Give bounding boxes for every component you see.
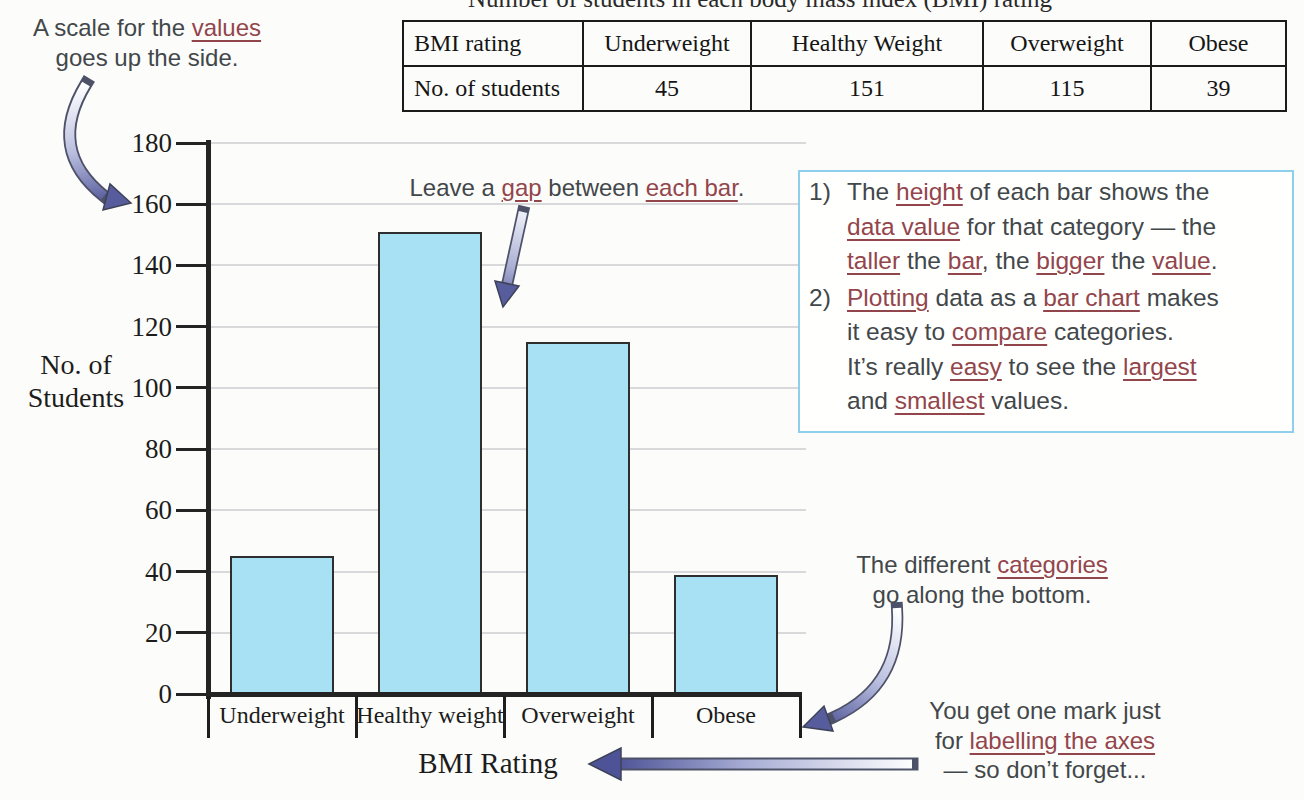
text-segment: , the bbox=[982, 247, 1036, 274]
text-segment: . bbox=[1211, 247, 1218, 274]
key-point-1-number: 1) bbox=[809, 175, 831, 210]
text-segment: Leave a bbox=[410, 174, 502, 201]
x-axis-title: BMI Rating bbox=[370, 748, 606, 778]
text-segment: . bbox=[738, 174, 745, 201]
y-tick-60 bbox=[176, 509, 208, 512]
key-point-2-line2: it easy to compare categories. bbox=[847, 315, 1292, 350]
category-separator-3 bbox=[651, 696, 654, 738]
text-segment: to see the bbox=[1002, 353, 1123, 380]
gap-annotation-line1: Leave a gap between each bar. bbox=[407, 173, 747, 203]
text-segment: the bbox=[900, 247, 948, 274]
axis-marks-line2: for labelling the axes bbox=[890, 726, 1200, 756]
text-segment: — so don’t forget... bbox=[944, 756, 1147, 783]
text-segment: go along the bottom. bbox=[873, 581, 1092, 608]
highlighted-term: compare bbox=[952, 318, 1047, 345]
scale-annotation: A scale for the values goes up the side. bbox=[17, 13, 277, 73]
scale-annotation-line1: A scale for the values bbox=[17, 13, 277, 43]
gridline-100 bbox=[208, 387, 806, 389]
highlighted-term: each bar bbox=[646, 174, 738, 201]
y-axis-title-line2: Students bbox=[6, 381, 146, 414]
key-point-2-line3: It’s really easy to see the largest bbox=[847, 350, 1292, 385]
key-point-1-line3: taller the bar, the bigger the value. bbox=[847, 244, 1292, 279]
gridline-60 bbox=[208, 509, 806, 511]
y-tick-label-20: 20 bbox=[92, 618, 172, 648]
key-point-1-line1: The height of each bar shows the bbox=[847, 175, 1292, 210]
gridline-80 bbox=[208, 448, 806, 450]
y-tick-140 bbox=[176, 264, 208, 267]
gridline-180 bbox=[208, 142, 806, 144]
y-tick-label-0: 0 bbox=[92, 679, 172, 709]
highlighted-term: taller bbox=[847, 247, 900, 274]
category-separator-2 bbox=[503, 696, 506, 738]
y-tick-label-160: 160 bbox=[92, 189, 172, 219]
bar-obese bbox=[674, 575, 778, 695]
scale-annotation-line2: goes up the side. bbox=[17, 43, 277, 73]
category-label-overweight: Overweight bbox=[504, 700, 652, 730]
gridline-120 bbox=[208, 326, 806, 328]
y-tick-label-180: 180 bbox=[92, 128, 172, 158]
key-point-2-line4: and smallest values. bbox=[847, 384, 1292, 419]
category-label-obese: Obese bbox=[652, 700, 800, 730]
highlighted-term: bar chart bbox=[1043, 284, 1140, 311]
key-point-2-line1: Plotting data as a bar chart makes bbox=[847, 281, 1292, 316]
text-segment: and bbox=[847, 387, 895, 414]
text-segment: the bbox=[1104, 247, 1152, 274]
text-segment: makes bbox=[1140, 284, 1219, 311]
text-segment: A scale for the bbox=[33, 14, 192, 41]
gap-annotation: Leave a gap between each bar. bbox=[407, 173, 747, 203]
text-segment: it easy to bbox=[847, 318, 952, 345]
y-tick-160 bbox=[176, 203, 208, 206]
textbook-page: Number of students in each body mass ind… bbox=[0, 0, 1304, 800]
y-axis-title-line1: No. of bbox=[6, 348, 146, 381]
highlighted-term: largest bbox=[1123, 353, 1197, 380]
bar-underweight bbox=[230, 556, 334, 695]
key-point-2: 2) Plotting data as a bar chart makes it… bbox=[800, 281, 1292, 419]
highlighted-term: value bbox=[1152, 247, 1211, 274]
y-tick-label-120: 120 bbox=[92, 312, 172, 342]
text-segment: goes up the side. bbox=[56, 44, 239, 71]
y-tick-0 bbox=[176, 693, 208, 696]
y-tick-label-40: 40 bbox=[92, 557, 172, 587]
category-label-healthy-weight: Healthy weight bbox=[356, 700, 504, 730]
category-separator-4 bbox=[799, 696, 802, 738]
key-point-1-line2: data value for that category — the bbox=[847, 210, 1292, 245]
key-point-2-number: 2) bbox=[809, 281, 831, 316]
text-segment: between bbox=[542, 174, 646, 201]
text-segment: of each bar shows the bbox=[963, 178, 1210, 205]
text-segment: You get one mark just bbox=[929, 697, 1160, 724]
axis-marks-line1: You get one mark just bbox=[890, 696, 1200, 726]
highlighted-term: data value bbox=[847, 213, 960, 240]
y-tick-label-60: 60 bbox=[92, 495, 172, 525]
highlighted-term: categories bbox=[997, 551, 1108, 578]
bar-healthy-weight bbox=[378, 232, 482, 695]
categories-annotation: The different categories go along the bo… bbox=[832, 550, 1132, 610]
highlighted-term: easy bbox=[950, 353, 1002, 380]
axis-marks-line3: — so don’t forget... bbox=[890, 755, 1200, 785]
bar-overweight bbox=[526, 342, 630, 695]
text-segment: The different bbox=[856, 551, 997, 578]
y-tick-label-80: 80 bbox=[92, 434, 172, 464]
text-segment: It’s really bbox=[847, 353, 950, 380]
y-tick-80 bbox=[176, 448, 208, 451]
text-segment: The bbox=[847, 178, 896, 205]
category-separator-0 bbox=[207, 696, 210, 738]
highlighted-term: smallest bbox=[895, 387, 985, 414]
y-tick-120 bbox=[176, 325, 208, 328]
text-segment: data as a bbox=[929, 284, 1043, 311]
categories-annotation-line1: The different categories bbox=[832, 550, 1132, 580]
y-tick-180 bbox=[176, 142, 208, 145]
key-points-box: 1) The height of each bar shows the data… bbox=[798, 170, 1294, 433]
categories-annotation-line2: go along the bottom. bbox=[832, 580, 1132, 610]
y-tick-label-140: 140 bbox=[92, 250, 172, 280]
highlighted-term: gap bbox=[502, 174, 542, 201]
gridline-140 bbox=[208, 264, 806, 266]
y-tick-20 bbox=[176, 631, 208, 634]
axis-marks-annotation: You get one mark just for labelling the … bbox=[890, 696, 1200, 785]
text-segment: categories. bbox=[1047, 318, 1174, 345]
text-segment: for that category — the bbox=[960, 213, 1216, 240]
text-segment: for bbox=[935, 727, 970, 754]
y-tick-40 bbox=[176, 570, 208, 573]
category-separator-1 bbox=[355, 696, 358, 738]
y-tick-100 bbox=[176, 386, 208, 389]
highlighted-term: values bbox=[192, 14, 261, 41]
